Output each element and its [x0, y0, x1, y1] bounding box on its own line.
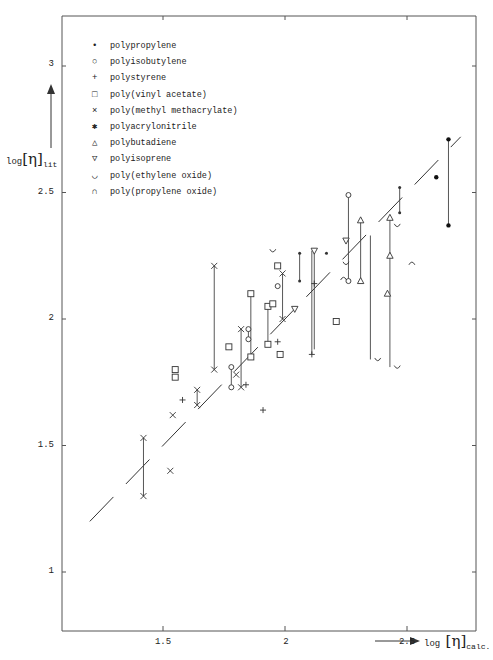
x-marker-icon — [170, 412, 176, 418]
circle-marker-icon — [275, 284, 280, 289]
cap-marker-icon — [341, 277, 347, 280]
dot-marker-icon — [398, 211, 401, 214]
y-tick-label: 1.5 — [24, 440, 54, 450]
x-marker-icon — [167, 468, 173, 474]
triangle-up-marker-icon — [387, 252, 393, 258]
circle-marker-icon — [346, 193, 351, 198]
square-marker-icon — [333, 319, 339, 325]
cap-marker-icon — [409, 262, 415, 265]
circle-marker-icon — [246, 337, 251, 342]
triangle-up-marker-icon — [357, 217, 363, 223]
plus-marker-icon: + — [92, 70, 110, 86]
x-marker-icon: × — [92, 103, 110, 119]
triangle-up-marker-icon: △ — [92, 135, 110, 151]
y-tick-label: 2.5 — [24, 187, 54, 197]
legend-item-polyisobutylene: ○polyisobutylene — [92, 54, 238, 70]
eta-symbol: [η] — [22, 150, 43, 168]
y-tick-label: 3 — [24, 59, 54, 69]
square-marker-icon — [248, 354, 254, 360]
legend: •polypropylene ○polyisobutylene +polysty… — [92, 38, 238, 200]
dot-marker-icon — [325, 252, 328, 255]
square-marker-icon — [226, 344, 232, 350]
legend-item-polyethylene-oxide: ◡poly(ethylene oxide) — [92, 168, 238, 184]
square-marker-icon — [172, 367, 178, 373]
cup-marker-icon — [270, 249, 276, 252]
legend-item-polystyrene: +polystyrene — [92, 70, 238, 86]
dot-marker-icon — [398, 186, 401, 189]
plus-marker-icon — [309, 351, 315, 357]
legend-item-polyacrylonitrile: ✱polyacrylonitrile — [92, 119, 238, 135]
legend-item-pmma: ×poly(methyl methacrylate) — [92, 103, 238, 119]
circle-marker-icon — [229, 385, 234, 390]
plus-marker-icon — [260, 407, 266, 413]
circle-marker-icon: ○ — [92, 54, 110, 70]
legend-item-polyvinyl-acetate: □poly(vinyl acetate) — [92, 87, 238, 103]
triangle-down-marker-icon: ▽ — [92, 151, 110, 167]
legend-item-polypropylene: •polypropylene — [92, 38, 238, 54]
y-axis-arrow-icon — [47, 84, 55, 94]
square-marker-icon — [172, 374, 178, 380]
triangle-up-marker-icon — [357, 278, 363, 284]
cup-marker-icon: ◡ — [92, 168, 110, 184]
legend-item-polyisoprene: ▽polyisoprene — [92, 151, 238, 167]
y-tick-label: 2 — [24, 313, 54, 323]
dot-marker-icon — [298, 252, 301, 255]
y-axis-label: log[η]lit — [6, 150, 57, 169]
legend-item-polypropylene-oxide: ∩poly(propylene oxide) — [92, 184, 238, 200]
star-marker-icon — [446, 223, 450, 227]
cap-marker-icon: ∩ — [92, 184, 110, 200]
star-marker-icon: ✱ — [92, 119, 110, 135]
dot-marker-icon — [298, 280, 301, 283]
x-tick-label: 2.5 — [392, 637, 422, 647]
square-marker-icon — [265, 341, 271, 347]
square-marker-icon — [248, 291, 254, 297]
star-marker-icon — [446, 137, 450, 141]
cup-marker-icon — [375, 358, 381, 361]
legend-item-polybutadiene: △polybutadiene — [92, 135, 238, 151]
x-tick-label: 1.5 — [148, 637, 178, 647]
square-marker-icon — [277, 351, 283, 357]
scatter-plot-canvas — [0, 0, 493, 660]
y-tick-label: 1 — [24, 566, 54, 576]
circle-marker-icon — [229, 365, 234, 370]
cup-marker-icon — [394, 224, 400, 227]
x-marker-icon — [233, 372, 239, 378]
circle-marker-icon — [246, 327, 251, 332]
plus-marker-icon — [180, 397, 186, 403]
triangle-up-marker-icon — [387, 214, 393, 220]
plus-marker-icon — [275, 339, 281, 345]
square-marker-icon — [275, 263, 281, 269]
square-marker-icon — [270, 301, 276, 307]
eta-symbol: [η] — [446, 632, 467, 650]
circle-marker-icon — [346, 279, 351, 284]
x-tick-label: 2 — [271, 637, 301, 647]
star-marker-icon — [434, 175, 438, 179]
cup-marker-icon — [394, 366, 400, 369]
dot-marker-icon: • — [92, 38, 110, 54]
square-marker-icon: □ — [92, 87, 110, 103]
x-axis-label: log [η]calc. — [424, 632, 490, 651]
